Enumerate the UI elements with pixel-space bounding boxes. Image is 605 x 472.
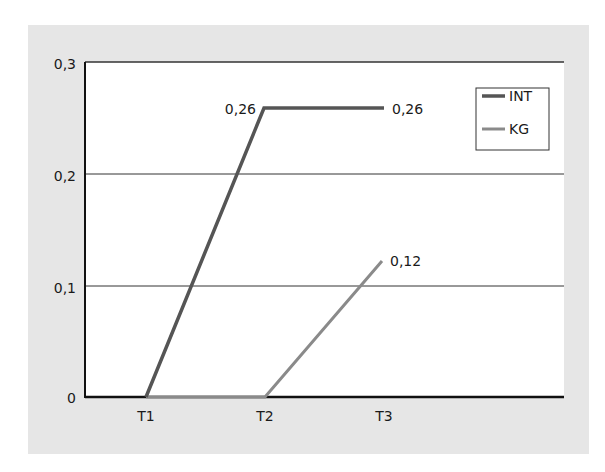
legend-label-int: INT	[509, 88, 533, 104]
data-label-int-t2: 0,26	[225, 101, 256, 117]
y-tick-label: 0,3	[54, 56, 76, 72]
y-tick-label: 0,1	[54, 280, 76, 296]
data-label-kg-t3: 0,12	[390, 253, 421, 269]
x-tick-label: T3	[374, 408, 392, 424]
data-label-int-t3: 0,26	[392, 101, 423, 117]
y-tick-label: 0,2	[54, 168, 76, 184]
y-tick-label: 0	[67, 390, 76, 406]
x-tick-label: T2	[255, 408, 273, 424]
line-chart: 0,3 0,2 0,1 0 T1 T2 T3 0,26 0,26 0,12 IN…	[0, 0, 605, 472]
legend: INT KG	[476, 88, 549, 150]
legend-label-kg: KG	[509, 121, 529, 137]
x-tick-label: T1	[136, 408, 154, 424]
